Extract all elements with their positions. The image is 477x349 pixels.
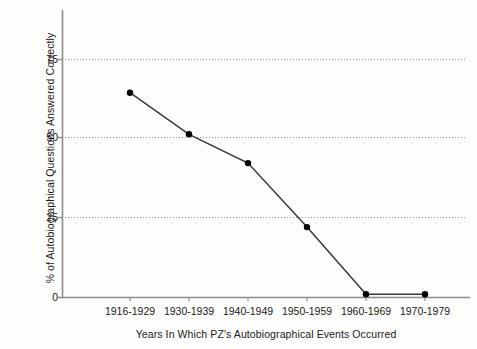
x-tick-label-0: 1916-1929 [105, 305, 155, 317]
data-point [186, 131, 192, 137]
x-tick-label-2: 1940-1949 [223, 305, 273, 317]
y-tickmarks [58, 60, 62, 298]
data-point [245, 160, 251, 166]
x-tick-label-1: 1930-1939 [164, 305, 214, 317]
x-axis-title: Years In Which PZ's Autobiographical Eve… [62, 328, 470, 340]
x-tick-label-4: 1960-1969 [341, 305, 391, 317]
gridlines [62, 60, 466, 218]
line-chart: 75 50 25 0 1916-1929 1930-1939 1940-1949… [0, 0, 477, 349]
chart-canvas [0, 0, 477, 349]
x-tick-label-3: 1950-1959 [282, 305, 332, 317]
data-point [422, 291, 428, 297]
data-markers [127, 90, 428, 298]
data-point [363, 291, 369, 297]
data-point [127, 90, 133, 96]
data-point [304, 224, 310, 230]
data-line [130, 93, 425, 295]
y-axis-title: % of Autobiographical Questions Answered… [44, 13, 56, 303]
x-tick-label-5: 1970-1979 [400, 305, 450, 317]
